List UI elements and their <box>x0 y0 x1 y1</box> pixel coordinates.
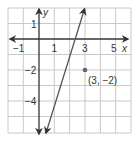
point-label: (3, −2) <box>88 75 117 86</box>
x-tick-1: 1 <box>52 43 58 54</box>
x-tick-5: 5 <box>111 43 117 54</box>
y-tick-neg2: −2 <box>25 65 37 76</box>
x-axis-label: x <box>121 43 128 54</box>
coordinate-graph: y x −1 1 3 5 1 −2 −4 (3, −2) <box>0 0 137 145</box>
y-tick-neg4: −4 <box>25 96 37 107</box>
x-tick-3: 3 <box>82 43 88 54</box>
y-axis-label: y <box>42 7 49 18</box>
plotted-line <box>46 9 85 133</box>
x-tick-neg1: −1 <box>13 43 25 54</box>
point-3-neg2 <box>83 68 88 73</box>
y-tick-1: 1 <box>31 19 37 30</box>
